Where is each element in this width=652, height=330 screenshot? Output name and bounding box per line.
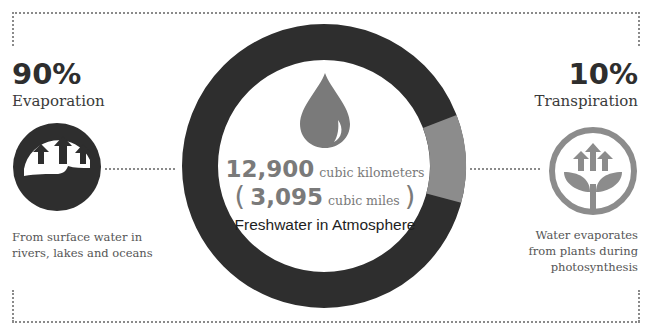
evaporation-description: From surface water in rivers, lakes and … bbox=[12, 229, 153, 261]
transpiration-desc-line2: from plants during bbox=[529, 243, 638, 259]
close-paren: ) bbox=[405, 180, 416, 211]
transpiration-desc-line1: Water evaporates bbox=[529, 227, 638, 243]
open-paren: ( bbox=[235, 180, 246, 211]
km-unit: cubic kilometers bbox=[319, 165, 424, 180]
evaporation-desc-line1: From surface water in bbox=[12, 229, 153, 245]
transpiration-description: Water evaporates from plants during phot… bbox=[529, 227, 638, 275]
evaporation-desc-line2: rivers, lakes and oceans bbox=[12, 245, 153, 261]
evaporation-label: Evaporation bbox=[12, 94, 105, 109]
transpiration-label: Transpiration bbox=[534, 94, 638, 109]
center-caption: Freshwater in Atmosphere bbox=[200, 216, 450, 234]
center-volume-mi: ( 3,095 cubic miles ) bbox=[200, 180, 450, 211]
center-volume-km: 12,900 cubic kilometers bbox=[200, 156, 450, 182]
water-evaporation-icon bbox=[12, 122, 102, 212]
transpiration-percent: 10% bbox=[569, 60, 638, 89]
transpiration-desc-line3: photosynthesis bbox=[529, 259, 638, 275]
water-drop-icon bbox=[298, 72, 352, 150]
mi-unit: cubic miles bbox=[328, 193, 400, 208]
km-value: 12,900 bbox=[225, 156, 314, 182]
evaporation-percent: 90% bbox=[12, 60, 81, 89]
mi-value: 3,095 bbox=[250, 184, 323, 210]
plant-transpiration-icon bbox=[548, 126, 638, 216]
